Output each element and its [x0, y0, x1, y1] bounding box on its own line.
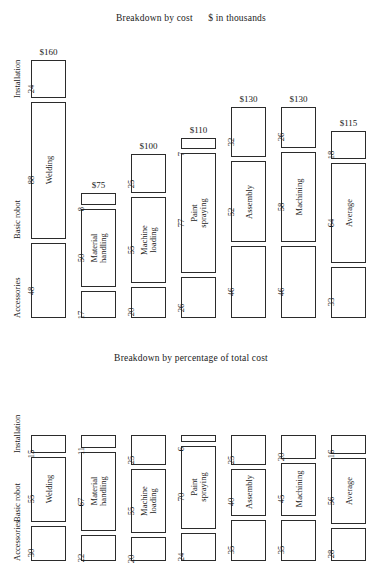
bar-segment-basic-robot: Machine loading: [131, 469, 166, 534]
bar-segment-installation: [81, 193, 116, 205]
segment-value-label: 26: [176, 298, 186, 318]
segment-value-label: 30: [26, 543, 36, 563]
bar-segment-accessories: [331, 528, 366, 561]
segment-value-label: 52: [226, 202, 236, 222]
bar-segment-accessories: [281, 246, 316, 318]
bar-segment-basic-robot: Assembly: [231, 469, 266, 516]
segment-value-label: 18: [326, 145, 336, 165]
bar-segment-installation: [231, 435, 266, 465]
segment-value-label: 8: [76, 199, 86, 219]
bar-segment-accessories: [181, 533, 216, 561]
segment-value-label: 77: [176, 213, 186, 233]
segment-value-label: 46: [226, 282, 236, 302]
bar-segment-accessories: [281, 520, 316, 561]
bar-segment-basic-robot: Machining: [281, 152, 316, 242]
category-label-text: Basic robot: [12, 483, 22, 522]
segment-value-label: 55: [26, 489, 36, 509]
bar-segment-basic-robot: Machine loading: [131, 197, 166, 283]
bar-segment-installation: [81, 435, 116, 448]
column-name-label: Average: [344, 199, 353, 227]
column-name-label: Machine loading: [140, 486, 158, 516]
bar-segment-basic-robot: Material handling: [81, 209, 116, 287]
bar-segment-installation: [131, 154, 166, 193]
bar-segment-accessories: [231, 520, 266, 561]
bar-segment-basic-robot: Machining: [281, 463, 316, 516]
column-machining: 46Machining5826$130: [281, 0, 316, 318]
category-label-text: Accessories: [12, 277, 22, 318]
column-material-handling: 17Material handling508$75: [81, 0, 116, 318]
segment-value-label: 33: [326, 292, 336, 312]
column-name-label: Average: [344, 477, 353, 505]
column-total-label: $130: [290, 94, 308, 104]
segment-value-label: 50: [76, 248, 86, 268]
bar-segment-installation: [281, 435, 316, 459]
category-label-text: Installation: [12, 414, 22, 452]
segment-value-label: 7: [176, 144, 186, 164]
column-name-label: Paint spraying: [190, 473, 208, 502]
column-name-label: Machining: [294, 471, 303, 508]
bar-segment-accessories: [31, 243, 66, 318]
column-total-label: $160: [40, 47, 58, 57]
column-total-label: $75: [92, 180, 106, 190]
category-label-text: Installation: [12, 60, 22, 98]
column-assembly: 35Assembly4025: [231, 340, 266, 561]
segment-value-label: 25: [126, 450, 136, 470]
bar-segment-accessories: [181, 277, 216, 318]
column-name-label: Material handling: [90, 477, 108, 507]
bar-segment-accessories: [81, 291, 116, 318]
bar-segment-accessories: [331, 267, 366, 318]
column-welding: 30Welding5515: [31, 340, 66, 561]
column-average: 33Average6418$115: [331, 0, 366, 318]
column-total-label: $110: [190, 125, 208, 135]
segment-value-label: 20: [126, 549, 136, 569]
segment-value-label: 6: [176, 439, 186, 459]
column-total-label: $100: [140, 141, 158, 151]
segment-value-label: 24: [26, 79, 36, 99]
bar-segment-installation: [31, 435, 66, 453]
column-material-handling: 22Material handling6711: [81, 340, 116, 561]
segment-value-label: 24: [176, 547, 186, 567]
column-machine-loading: 20Machine loading5525$100: [131, 0, 166, 318]
column-machine-loading: 20Machine loading5525: [131, 340, 166, 561]
segment-value-label: 48: [26, 281, 36, 301]
segment-value-label: 20: [276, 447, 286, 467]
bar-segment-accessories: [81, 535, 116, 561]
column-name-label: Assembly: [244, 475, 253, 509]
bar-segment-basic-robot: Welding: [31, 457, 66, 522]
segment-value-label: 46: [276, 282, 286, 302]
column-welding: 48Welding8824$160: [31, 0, 66, 318]
column-average: 28Average5616: [331, 340, 366, 561]
segment-value-label: 70: [176, 487, 186, 507]
segment-value-label: 35: [226, 540, 236, 560]
column-name-label: Paint spraying: [190, 199, 208, 228]
segment-value-label: 16: [326, 444, 336, 464]
bar-segment-installation: [331, 131, 366, 159]
bar-segment-accessories: [131, 537, 166, 561]
segment-value-label: 40: [226, 492, 236, 512]
column-name-label: Welding: [44, 156, 53, 185]
column-paint-spraying: 24Paint spraying706: [181, 340, 216, 561]
segment-value-label: 58: [276, 197, 286, 217]
bar-segment-basic-robot: Paint spraying: [181, 446, 216, 529]
column-total-label: $115: [340, 118, 358, 128]
bar-segment-accessories: [231, 246, 266, 318]
bar-segment-basic-robot: Average: [331, 458, 366, 524]
segment-value-label: 25: [226, 450, 236, 470]
segment-value-label: 28: [326, 544, 336, 564]
segment-value-label: 22: [76, 548, 86, 568]
bar-segment-installation: [181, 435, 216, 442]
bar-segment-installation: [331, 435, 366, 454]
segment-value-label: 15: [26, 444, 36, 464]
segment-value-label: 64: [326, 213, 336, 233]
bar-segment-installation: [131, 435, 166, 465]
segment-value-label: 55: [126, 240, 136, 260]
bar-segment-basic-robot: Welding: [31, 102, 66, 239]
column-paint-spraying: 26Paint spraying777$110: [181, 0, 216, 318]
bar-segment-basic-robot: Material handling: [81, 452, 116, 531]
column-machining: 35Machining4520: [281, 340, 316, 561]
segment-value-label: 11: [76, 441, 86, 461]
column-name-label: Assembly: [244, 185, 253, 219]
bar-segment-installation: [31, 60, 66, 97]
bar-segment-basic-robot: Assembly: [231, 161, 266, 242]
segment-value-label: 88: [26, 170, 36, 190]
